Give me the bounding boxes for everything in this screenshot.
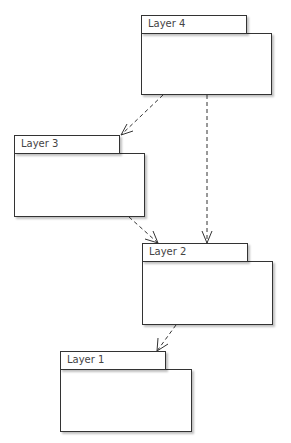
dependency-arrow-4-to-3 <box>121 95 163 135</box>
package-body-layer-4 <box>141 33 272 95</box>
package-label: Layer 2 <box>149 246 186 257</box>
package-body-layer-2 <box>142 261 273 325</box>
dependency-arrow-2-to-1 <box>157 325 176 351</box>
dependency-arrow-3-to-2 <box>129 217 158 243</box>
package-label: Layer 1 <box>67 354 104 365</box>
package-body-layer-3 <box>14 153 145 217</box>
package-label: Layer 4 <box>148 18 185 29</box>
arrowhead-icon <box>157 338 168 351</box>
arrowhead-icon <box>202 231 212 243</box>
package-tab-layer-1: Layer 1 <box>60 351 166 370</box>
arrowhead-icon <box>121 124 133 135</box>
package-tab-layer-3: Layer 3 <box>14 135 120 154</box>
package-tab-layer-4: Layer 4 <box>141 15 247 34</box>
arrowhead-icon <box>145 231 158 243</box>
package-tab-layer-2: Layer 2 <box>142 243 248 262</box>
package-label: Layer 3 <box>21 138 58 149</box>
package-body-layer-1 <box>60 369 192 432</box>
